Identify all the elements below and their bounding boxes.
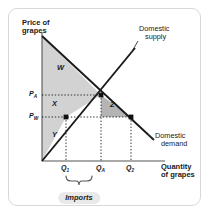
demand-label-leader [148,134,154,140]
quantity-autarky-sub: A [101,168,104,173]
autarky-price-sub: A [34,94,37,99]
domestic-demand-label-line2: demand [161,140,187,148]
domestic-demand-label: Domestic demand [155,132,187,147]
x-axis-title: Quantity of grapes [161,163,195,179]
autarky-point [99,93,104,98]
world-price-sub: W [34,116,39,121]
imports-brace [66,176,92,185]
supply-label-leader [131,41,138,53]
domestic-supply-label-line2: supply [145,33,166,41]
supply-at-world-price-point [64,115,69,120]
quantity-demanded-sub: 2 [131,168,134,173]
world-price-tick-label: PW [29,112,38,121]
x-axis-title-line2: of grapes [161,170,195,179]
autarky-price-tick-label: PA [29,90,37,99]
imports-label: Imports [58,192,100,204]
y-axis-title-line2: grapes [22,26,47,35]
quantity-demanded-tick-label: Q2 [126,164,134,173]
region-x-label: X [52,100,57,108]
region-w-label: W [57,64,64,72]
domestic-supply-label: Domestic supply [139,25,169,40]
quantity-supplied-tick-label: Q1 [61,164,69,173]
demand-at-world-price-point [129,115,134,120]
y-axis-title: Price of grapes [22,19,50,35]
quantity-supplied-sub: 1 [66,168,69,173]
region-y-label: Y [52,131,57,139]
region-z-label: Z [110,101,115,109]
quantity-autarky-tick-label: QA [96,164,105,173]
region-y-shape [42,117,66,161]
region-x-shape [42,95,101,117]
